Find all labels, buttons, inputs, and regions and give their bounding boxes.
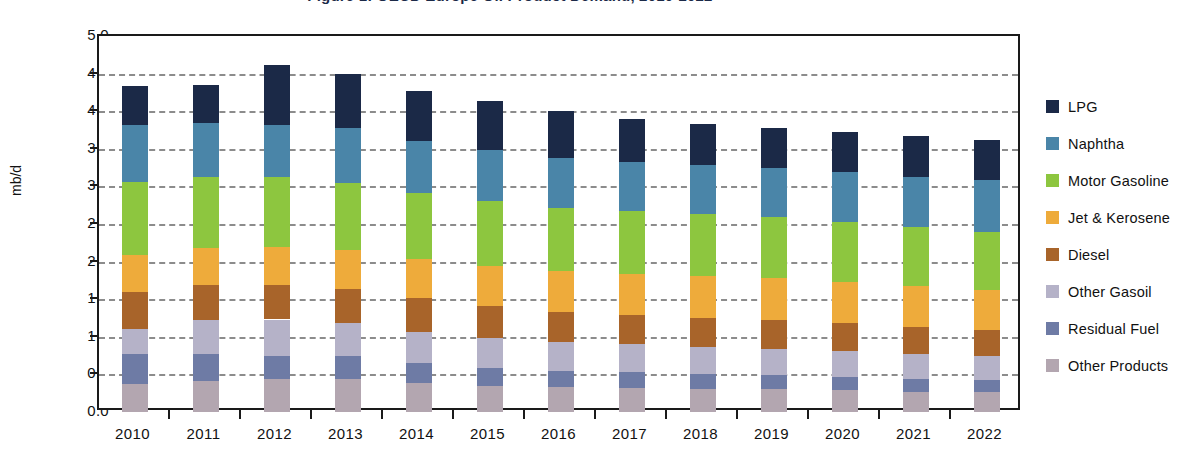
- bar-segment[interactable]: [903, 286, 929, 327]
- bar-segment[interactable]: [761, 349, 787, 375]
- bar-segment[interactable]: [832, 132, 858, 173]
- bar-segment[interactable]: [122, 86, 148, 125]
- bar-segment[interactable]: [193, 248, 219, 285]
- legend-item[interactable]: LPG: [1046, 88, 1170, 125]
- bar-segment[interactable]: [974, 392, 1000, 412]
- bar-segment[interactable]: [619, 211, 645, 273]
- bar-segment[interactable]: [548, 111, 574, 158]
- bar-segment[interactable]: [619, 344, 645, 372]
- bar-segment[interactable]: [974, 140, 1000, 181]
- bar-segment[interactable]: [832, 222, 858, 282]
- bar-segment[interactable]: [122, 292, 148, 330]
- bar-segment[interactable]: [335, 323, 361, 357]
- bar-segment[interactable]: [619, 274, 645, 315]
- bar-segment[interactable]: [761, 320, 787, 349]
- bar-segment[interactable]: [903, 392, 929, 412]
- bar-segment[interactable]: [548, 371, 574, 388]
- bar-segment[interactable]: [761, 217, 787, 278]
- bar-segment[interactable]: [335, 289, 361, 323]
- stacked-bar[interactable]: [974, 36, 1000, 412]
- bar-segment[interactable]: [406, 91, 432, 141]
- bar-segment[interactable]: [193, 381, 219, 412]
- bar-segment[interactable]: [619, 162, 645, 212]
- legend-item[interactable]: Residual Fuel: [1046, 310, 1170, 347]
- bar-segment[interactable]: [761, 389, 787, 412]
- bar-segment[interactable]: [193, 320, 219, 354]
- bar-segment[interactable]: [193, 85, 219, 123]
- stacked-bar[interactable]: [903, 36, 929, 412]
- bar-segment[interactable]: [903, 136, 929, 177]
- bar-segment[interactable]: [406, 141, 432, 194]
- bar-segment[interactable]: [264, 65, 290, 125]
- bar-segment[interactable]: [335, 379, 361, 412]
- stacked-bar[interactable]: [264, 36, 290, 412]
- bar-segment[interactable]: [122, 354, 148, 384]
- bar-segment[interactable]: [548, 158, 574, 208]
- stacked-bar[interactable]: [761, 36, 787, 412]
- bar-segment[interactable]: [264, 320, 290, 356]
- bar-segment[interactable]: [974, 330, 1000, 356]
- bar-segment[interactable]: [690, 165, 716, 215]
- bar-segment[interactable]: [974, 356, 1000, 380]
- bar-segment[interactable]: [690, 276, 716, 318]
- bar-segment[interactable]: [690, 214, 716, 276]
- stacked-bar[interactable]: [335, 36, 361, 412]
- bar-segment[interactable]: [477, 150, 503, 202]
- bar-segment[interactable]: [477, 201, 503, 266]
- bar-segment[interactable]: [548, 342, 574, 371]
- bar-segment[interactable]: [619, 315, 645, 344]
- stacked-bar[interactable]: [477, 36, 503, 412]
- bar-segment[interactable]: [477, 101, 503, 149]
- bar-segment[interactable]: [335, 250, 361, 288]
- bar-segment[interactable]: [761, 375, 787, 389]
- bar-segment[interactable]: [690, 318, 716, 347]
- bar-segment[interactable]: [122, 182, 148, 255]
- bar-segment[interactable]: [690, 374, 716, 389]
- bar-segment[interactable]: [548, 208, 574, 271]
- legend-item[interactable]: Naphtha: [1046, 125, 1170, 162]
- bar-segment[interactable]: [406, 259, 432, 298]
- bar-segment[interactable]: [406, 363, 432, 383]
- bar-segment[interactable]: [477, 266, 503, 306]
- bar-segment[interactable]: [619, 372, 645, 388]
- bar-segment[interactable]: [477, 338, 503, 368]
- bar-segment[interactable]: [832, 282, 858, 323]
- legend-item[interactable]: Jet & Kerosene: [1046, 199, 1170, 236]
- bar-segment[interactable]: [974, 232, 1000, 291]
- bar-segment[interactable]: [264, 247, 290, 285]
- bar-segment[interactable]: [122, 255, 148, 292]
- bar-segment[interactable]: [122, 329, 148, 354]
- bar-segment[interactable]: [122, 384, 148, 412]
- bar-segment[interactable]: [264, 356, 290, 379]
- stacked-bar[interactable]: [832, 36, 858, 412]
- bar-segment[interactable]: [619, 119, 645, 162]
- bar-segment[interactable]: [477, 368, 503, 386]
- bar-segment[interactable]: [477, 386, 503, 412]
- bar-segment[interactable]: [193, 354, 219, 381]
- legend-item[interactable]: Motor Gasoline: [1046, 162, 1170, 199]
- bar-segment[interactable]: [832, 390, 858, 412]
- bar-segment[interactable]: [903, 327, 929, 354]
- stacked-bar[interactable]: [193, 36, 219, 412]
- bar-segment[interactable]: [548, 387, 574, 412]
- bar-segment[interactable]: [690, 124, 716, 165]
- bar-segment[interactable]: [761, 168, 787, 218]
- bar-segment[interactable]: [193, 123, 219, 177]
- bar-segment[interactable]: [406, 193, 432, 259]
- bar-segment[interactable]: [477, 306, 503, 338]
- bar-segment[interactable]: [974, 290, 1000, 330]
- bar-segment[interactable]: [761, 128, 787, 167]
- bar-segment[interactable]: [903, 354, 929, 379]
- bar-segment[interactable]: [832, 351, 858, 377]
- bar-segment[interactable]: [761, 278, 787, 320]
- bar-segment[interactable]: [335, 74, 361, 129]
- bar-segment[interactable]: [832, 323, 858, 351]
- stacked-bar[interactable]: [406, 36, 432, 412]
- bar-segment[interactable]: [974, 380, 1000, 392]
- legend-item[interactable]: Other Gasoil: [1046, 273, 1170, 310]
- bar-segment[interactable]: [264, 285, 290, 320]
- bar-segment[interactable]: [264, 379, 290, 412]
- stacked-bar[interactable]: [122, 36, 148, 412]
- bar-segment[interactable]: [264, 177, 290, 247]
- bar-segment[interactable]: [832, 172, 858, 222]
